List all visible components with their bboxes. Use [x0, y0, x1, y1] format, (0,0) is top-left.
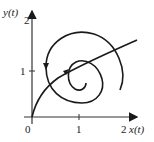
phase-portrait: 0 1 2 x(t) 1 2 y(t) — [0, 0, 154, 142]
y-tick-label-1: 1 — [20, 65, 26, 77]
x-tick-label-2: 2 — [121, 123, 127, 135]
spiral-arrow-icon — [43, 63, 49, 70]
x-tick-label-1: 1 — [76, 123, 82, 135]
y-axis-label: y(t) — [2, 6, 19, 19]
spiral-trajectory — [46, 32, 123, 103]
y-tick-label-2: 2 — [24, 14, 30, 26]
x-axis-label: x(t) — [128, 123, 145, 136]
origin-label: 0 — [25, 123, 31, 135]
